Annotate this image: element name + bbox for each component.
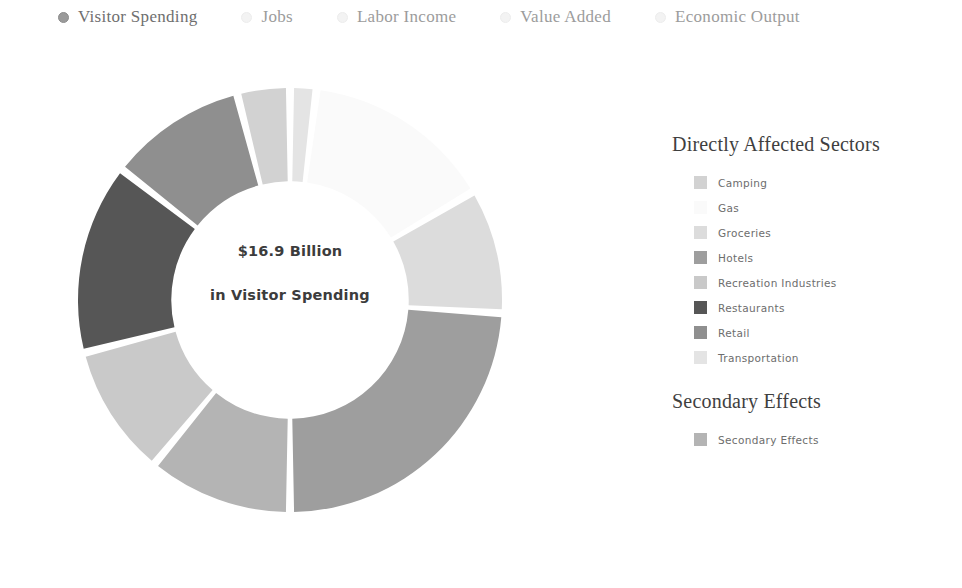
tab-labor-income[interactable]: Labor Income [337,7,456,27]
chart-legend: Directly Affected Sectors CampingGasGroc… [672,133,952,452]
tab-visitor-spending[interactable]: Visitor Spending [58,7,197,27]
legend-color-swatch [694,226,707,239]
legend-item-label: Retail [718,327,750,339]
legend-item-primary[interactable]: Hotels [672,245,952,270]
legend-item-label: Camping [718,177,767,189]
legend-item-label: Recreation Industries [718,277,837,289]
tab-label: Economic Output [675,7,800,27]
legend-color-swatch [694,301,707,314]
legend-color-swatch [694,433,707,446]
tab-value-added[interactable]: Value Added [500,7,611,27]
legend-secondary-list: Secondary Effects [672,427,952,452]
legend-heading-primary: Directly Affected Sectors [672,133,952,156]
radio-empty-icon[interactable] [655,12,666,23]
legend-color-swatch [694,326,707,339]
legend-heading-secondary: Secondary Effects [672,390,952,413]
legend-color-swatch [694,201,707,214]
legend-item-primary[interactable]: Recreation Industries [672,270,952,295]
legend-color-swatch [694,251,707,264]
legend-color-swatch [694,276,707,289]
tab-label: Labor Income [357,7,456,27]
donut-chart-svg[interactable] [48,58,588,578]
donut-slice-group[interactable] [78,88,502,512]
legend-primary-list: CampingGasGroceriesHotelsRecreation Indu… [672,170,952,370]
legend-item-primary[interactable]: Transportation [672,345,952,370]
legend-item-label: Groceries [718,227,771,239]
donut-chart: $16.9 Billion in Visitor Spending [48,58,588,578]
tab-jobs[interactable]: Jobs [241,7,292,27]
legend-item-label: Restaurants [718,302,785,314]
legend-item-label: Secondary Effects [718,434,819,446]
legend-item-primary[interactable]: Gas [672,195,952,220]
tab-label: Jobs [261,7,292,27]
legend-item-secondary[interactable]: Secondary Effects [672,427,952,452]
radio-empty-icon[interactable] [337,12,348,23]
legend-item-label: Gas [718,202,739,214]
legend-color-swatch [694,351,707,364]
radio-empty-icon[interactable] [500,12,511,23]
tab-label: Visitor Spending [78,7,197,27]
radio-filled-icon[interactable] [58,12,69,23]
legend-item-label: Hotels [718,252,753,264]
legend-item-label: Transportation [718,352,799,364]
tab-label: Value Added [520,7,611,27]
donut-slice[interactable] [292,310,501,512]
legend-item-primary[interactable]: Groceries [672,220,952,245]
legend-color-swatch [694,176,707,189]
legend-item-primary[interactable]: Restaurants [672,295,952,320]
radio-empty-icon[interactable] [241,12,252,23]
legend-item-primary[interactable]: Camping [672,170,952,195]
tab-economic-output[interactable]: Economic Output [655,7,800,27]
view-tab-bar: Visitor Spending Jobs Labor Income Value… [0,0,962,34]
legend-item-primary[interactable]: Retail [672,320,952,345]
